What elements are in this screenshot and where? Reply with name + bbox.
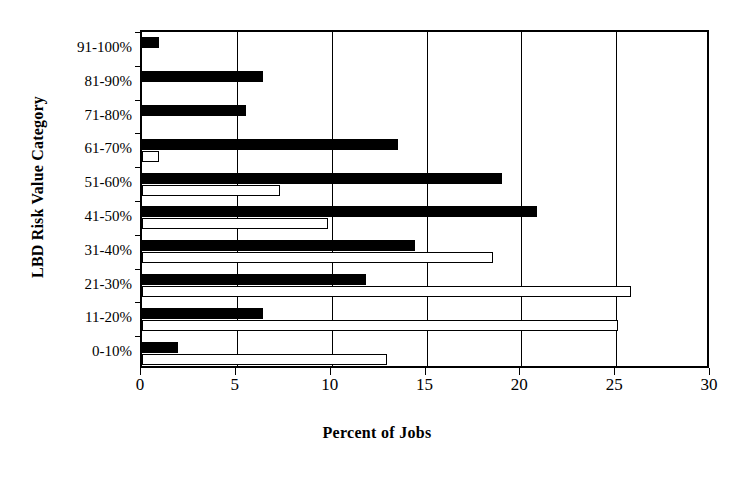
x-tick-label: 20 — [499, 376, 539, 394]
bar-solid — [142, 71, 263, 82]
y-tick-mark — [135, 66, 142, 67]
y-tick-mark — [135, 100, 142, 101]
x-tick-mark — [330, 368, 331, 375]
chart-figure: LBD Risk Value Category 0-10%11-20%21-30… — [0, 0, 754, 480]
y-tick-label: 51-60% — [22, 174, 132, 190]
x-axis-title: Percent of Jobs — [0, 424, 754, 442]
y-tick-label: 21-30% — [22, 276, 132, 292]
bar-solid — [142, 206, 537, 217]
x-tick-mark — [519, 368, 520, 375]
bar-solid — [142, 37, 159, 48]
y-tick-label: 91-100% — [22, 39, 132, 55]
y-tick-label: 31-40% — [22, 242, 132, 258]
gridline — [521, 32, 522, 366]
bar-solid — [142, 308, 263, 319]
gridline — [427, 32, 428, 366]
x-tick-label: 5 — [215, 376, 255, 394]
y-tick-label: 11-20% — [22, 309, 132, 325]
gridline — [616, 32, 617, 366]
x-tick-mark — [614, 368, 615, 375]
bar-hollow — [142, 320, 618, 331]
bar-solid — [142, 139, 398, 150]
x-tick-mark — [140, 368, 141, 375]
x-tick-mark — [425, 368, 426, 375]
x-tick-label: 15 — [405, 376, 445, 394]
y-tick-mark — [135, 235, 142, 236]
bar-solid — [142, 173, 502, 184]
bar-hollow — [142, 354, 387, 365]
y-tick-label: 41-50% — [22, 208, 132, 224]
bar-solid — [142, 240, 415, 251]
y-tick-label: 0-10% — [22, 343, 132, 359]
y-tick-mark — [135, 167, 142, 168]
bar-solid — [142, 342, 178, 353]
plot-area — [140, 30, 709, 368]
bar-solid — [142, 105, 246, 116]
bar-hollow — [142, 252, 493, 263]
x-tick-mark — [235, 368, 236, 375]
x-tick-label: 30 — [689, 376, 729, 394]
y-tick-mark — [135, 32, 142, 33]
bar-solid — [142, 274, 366, 285]
bar-hollow — [142, 286, 631, 297]
y-tick-mark — [135, 133, 142, 134]
bar-hollow — [142, 151, 159, 162]
x-tick-label: 25 — [594, 376, 634, 394]
y-tick-label: 61-70% — [22, 140, 132, 156]
bar-hollow — [142, 218, 328, 229]
x-tick-label: 10 — [310, 376, 350, 394]
y-tick-mark — [135, 201, 142, 202]
x-tick-label: 0 — [120, 376, 160, 394]
y-tick-label: 71-80% — [22, 107, 132, 123]
y-tick-label: 81-90% — [22, 73, 132, 89]
bar-hollow — [142, 185, 280, 196]
y-tick-mark — [135, 269, 142, 270]
x-tick-mark — [709, 368, 710, 375]
y-tick-mark — [135, 302, 142, 303]
y-tick-mark — [135, 336, 142, 337]
gridline — [332, 32, 333, 366]
